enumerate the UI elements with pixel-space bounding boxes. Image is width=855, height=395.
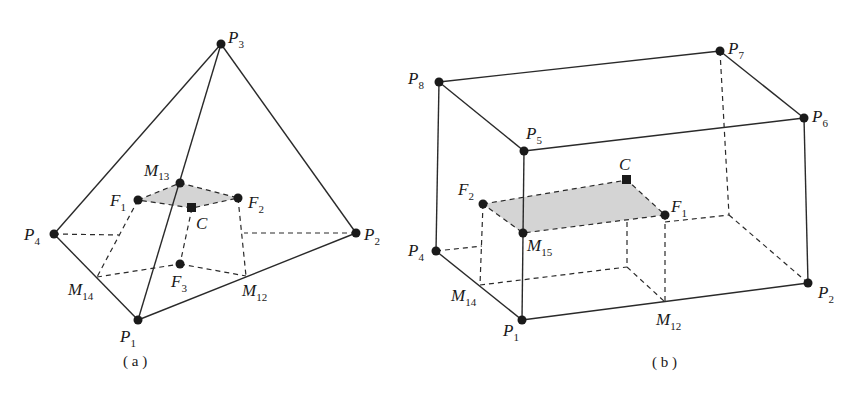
dashed-p4-inner bbox=[436, 246, 482, 251]
point-a-f1 bbox=[134, 196, 143, 205]
label-a-m14: M14 bbox=[67, 280, 94, 302]
edge-p8-p7 bbox=[439, 51, 720, 82]
edge-p8-p4 bbox=[436, 82, 439, 251]
vertex-b-p1 bbox=[518, 316, 527, 325]
dashed-p4-inner bbox=[54, 234, 119, 235]
label-a-f2: F2 bbox=[247, 193, 264, 215]
label-a-p1: P1 bbox=[119, 327, 136, 349]
label-b-f1: F1 bbox=[670, 197, 687, 219]
vertex-a-p3 bbox=[217, 40, 226, 49]
label-a-f3: F3 bbox=[170, 272, 187, 294]
dashed-f1-p3 bbox=[665, 215, 729, 222]
label-b-m12: M12 bbox=[655, 310, 681, 332]
point-a-m13 bbox=[176, 179, 185, 188]
label-a-f1: F1 bbox=[109, 191, 126, 213]
edge-p8-p5 bbox=[439, 82, 524, 151]
caption-a: ( a ) bbox=[123, 353, 147, 370]
dashed-m14-f3 bbox=[97, 264, 180, 277]
vertex-b-p5 bbox=[520, 147, 529, 156]
edge-p5-p6 bbox=[524, 118, 804, 151]
point-b-f1 bbox=[661, 211, 670, 220]
vertex-b-p2 bbox=[804, 279, 813, 288]
edge-p6-p2 bbox=[804, 118, 808, 283]
figure-canvas: P3 P4 P2 P1 M13 F1 F2 C F3 M14 M12 ( a ) bbox=[0, 0, 855, 395]
label-b-p4: P4 bbox=[407, 241, 424, 263]
vertex-a-p4 bbox=[50, 230, 59, 239]
vertex-b-p4 bbox=[432, 247, 441, 256]
label-b-p8: P8 bbox=[407, 69, 424, 91]
centroid-a-c bbox=[187, 203, 196, 212]
label-b-m15: M15 bbox=[526, 236, 553, 258]
label-b-p1: P1 bbox=[502, 321, 519, 343]
shaded-cell-face-b bbox=[483, 180, 665, 233]
dashed-f3-m12 bbox=[180, 264, 246, 276]
point-b-f2 bbox=[479, 200, 488, 209]
dashed-f2-m14 bbox=[480, 204, 483, 285]
vertex-b-p8 bbox=[435, 78, 444, 87]
edge-p7-p6 bbox=[720, 51, 804, 118]
dashed-p7-p3 bbox=[720, 51, 729, 215]
vertex-b-p7 bbox=[716, 47, 725, 56]
label-b-f2: F2 bbox=[457, 180, 474, 202]
vertex-b-p6 bbox=[800, 114, 809, 123]
centroid-b-c bbox=[622, 175, 631, 184]
dashed-f2-m12 bbox=[238, 198, 246, 276]
edge-p3-p2 bbox=[221, 44, 356, 233]
caption-b: ( b ) bbox=[652, 354, 677, 371]
edge-p4-p1 bbox=[436, 251, 522, 320]
label-a-p3: P3 bbox=[227, 28, 244, 50]
dashed-f1-m14 bbox=[97, 200, 138, 277]
dashed-c-f3 bbox=[180, 208, 192, 264]
label-b-m14: M14 bbox=[450, 286, 477, 308]
dashed-inner-m12 bbox=[627, 267, 665, 302]
panel-b-hexahedron: P8 P7 P6 P5 P4 P2 P1 C F2 F1 M15 M14 M12… bbox=[407, 39, 834, 371]
label-b-p7: P7 bbox=[727, 39, 744, 61]
point-a-f2 bbox=[234, 194, 243, 203]
label-a-p2: P2 bbox=[363, 225, 380, 247]
vertex-a-p1 bbox=[134, 316, 143, 325]
label-a-m13: M13 bbox=[143, 161, 170, 182]
edge-p4-p1 bbox=[54, 234, 138, 320]
label-a-m12: M12 bbox=[241, 281, 267, 303]
point-a-f3 bbox=[176, 260, 185, 269]
label-a-p4: P4 bbox=[23, 225, 40, 247]
panel-a-tetrahedron: P3 P4 P2 P1 M13 F1 F2 C F3 M14 M12 ( a ) bbox=[23, 28, 380, 370]
dashed-p3-p2 bbox=[729, 215, 808, 283]
vertex-a-p2 bbox=[352, 229, 361, 238]
label-a-c: C bbox=[196, 214, 208, 233]
dashed-m14-inner bbox=[480, 267, 627, 285]
label-b-c: C bbox=[619, 155, 631, 174]
label-b-p6: P6 bbox=[811, 107, 828, 129]
label-b-p2: P2 bbox=[817, 283, 834, 305]
label-b-p5: P5 bbox=[525, 124, 542, 146]
